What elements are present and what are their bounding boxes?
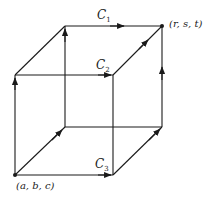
end-point-label: (r, s, t) bbox=[169, 18, 202, 29]
arrow-c3-bottom-right-diag bbox=[149, 129, 160, 140]
end-point-dot bbox=[160, 24, 164, 28]
arrow-c2-top-right-diag bbox=[139, 40, 148, 49]
edge-top-left-diag bbox=[15, 26, 65, 75]
cube-paths-diagram: C1 C2 C3 (r, s, t) (a, b, c) bbox=[0, 0, 216, 201]
arrow-bottom-left-diag bbox=[52, 130, 62, 140]
path-label-c1: C1 bbox=[97, 8, 111, 24]
edge-top-right-diag bbox=[113, 26, 162, 75]
start-point-dot bbox=[13, 173, 17, 177]
start-point-label: (a, b, c) bbox=[16, 180, 55, 191]
path-label-c3: C3 bbox=[95, 157, 109, 173]
path-label-c2: C2 bbox=[96, 58, 110, 74]
